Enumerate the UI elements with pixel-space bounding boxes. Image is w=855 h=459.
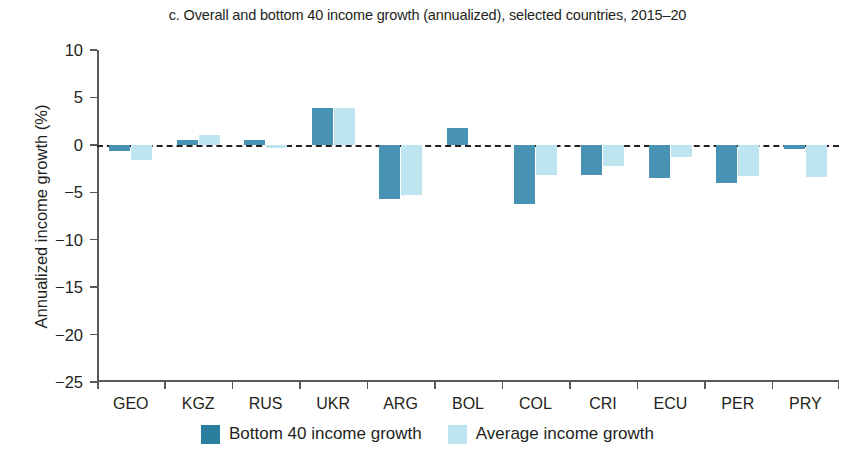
legend-label: Average income growth [476, 424, 654, 444]
y-axis-tick [90, 144, 97, 146]
legend-swatch-icon [448, 425, 467, 444]
legend-label: Bottom 40 income growth [229, 424, 422, 444]
y-axis-tick-label: −20 [23, 325, 83, 344]
x-axis-label-cri: CRI [589, 395, 617, 413]
x-axis-line [97, 380, 839, 382]
legend-swatch-icon [201, 425, 220, 444]
bar-ukr-series-1 [334, 108, 355, 145]
x-axis-tick [299, 382, 301, 389]
legend-item-0[interactable]: Bottom 40 income growth [201, 424, 422, 444]
chart-legend: Bottom 40 income growthAverage income gr… [0, 424, 855, 444]
bar-cri-series-0 [581, 145, 602, 175]
y-axis-tick [90, 286, 97, 288]
bar-pry-series-1 [806, 145, 827, 177]
x-axis-label-ukr: UKR [316, 395, 350, 413]
x-axis-tick [97, 382, 99, 389]
y-axis-tick-label: −5 [23, 183, 83, 202]
y-axis-tick-label: −25 [23, 373, 83, 392]
x-axis-tick [772, 382, 774, 389]
x-axis-label-col: COL [519, 395, 552, 413]
x-axis-tick [637, 382, 639, 389]
y-axis-tick [90, 192, 97, 194]
x-axis-tick [232, 382, 234, 389]
bar-rus-series-0 [244, 140, 265, 145]
y-axis-tick [90, 97, 97, 99]
bar-geo-series-0 [109, 145, 130, 151]
x-axis-label-kgz: KGZ [182, 395, 215, 413]
bar-cri-series-1 [603, 145, 624, 166]
bar-kgz-series-0 [177, 140, 198, 145]
bar-ukr-series-0 [312, 108, 333, 145]
bar-per-series-1 [738, 145, 759, 176]
bar-rus-series-1 [266, 145, 287, 148]
x-axis-tick [704, 382, 706, 389]
x-axis-tick [502, 382, 504, 389]
y-axis-tick [90, 334, 97, 336]
bar-geo-series-1 [131, 145, 152, 160]
x-axis-label-pry: PRY [789, 395, 822, 413]
bar-bol-series-0 [447, 128, 468, 145]
legend-item-1[interactable]: Average income growth [448, 424, 654, 444]
bar-arg-series-1 [401, 145, 422, 195]
bar-ecu-series-1 [671, 145, 692, 157]
bar-ecu-series-0 [649, 145, 670, 178]
y-axis-line [97, 50, 99, 382]
chart-title: c. Overall and bottom 40 income growth (… [0, 7, 855, 23]
bar-pry-series-0 [784, 145, 805, 149]
x-axis-label-ecu: ECU [653, 395, 687, 413]
y-axis-tick-label: 0 [23, 135, 83, 154]
bar-col-series-1 [536, 145, 557, 175]
x-axis-label-geo: GEO [113, 395, 149, 413]
x-axis-label-bol: BOL [452, 395, 484, 413]
bar-col-series-0 [514, 145, 535, 204]
x-axis-tick [838, 382, 840, 389]
x-axis-label-arg: ARG [383, 395, 418, 413]
y-axis-tick-label: 5 [23, 88, 83, 107]
chart-figure: c. Overall and bottom 40 income growth (… [0, 0, 855, 459]
x-axis-label-per: PER [721, 395, 754, 413]
x-axis-tick [367, 382, 369, 389]
x-axis-tick [164, 382, 166, 389]
y-axis-tick-label: 10 [23, 41, 83, 60]
x-axis-label-rus: RUS [249, 395, 283, 413]
x-axis-tick [569, 382, 571, 389]
y-axis-tick-label: −10 [23, 230, 83, 249]
y-axis-tick-label: −15 [23, 278, 83, 297]
y-axis-tick [90, 49, 97, 51]
x-axis-tick [434, 382, 436, 389]
bar-kgz-series-1 [199, 135, 220, 144]
y-axis-tick [90, 239, 97, 241]
y-axis-tick [90, 381, 97, 383]
bar-per-series-0 [716, 145, 737, 183]
bar-arg-series-0 [379, 145, 400, 199]
plot-area: 1050−5−10−15−20−25 GEOKGZRUSUKRARGBOLCOL… [97, 50, 839, 382]
